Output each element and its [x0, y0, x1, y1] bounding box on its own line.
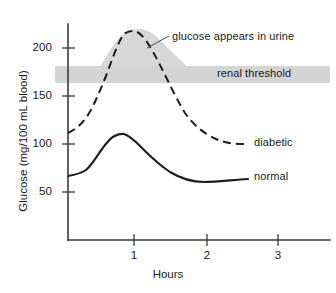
x-axis-title: Hours [0, 268, 336, 280]
x-tick-label-1: 1 [124, 250, 144, 262]
annotation-glucose-appears-in-urine: glucose appears in urine [172, 31, 294, 42]
annotation-renal-threshold: renal threshold [217, 68, 291, 79]
x-tick-label-3: 3 [268, 250, 288, 262]
y-axis-title: Glucose (mg/100 mL blood) [17, 56, 29, 226]
y-tick-label-200: 200 [22, 42, 52, 54]
glucose-tolerance-chart: 200 150 100 50 1 2 3 Glucose (mg/100 mL … [0, 0, 336, 293]
series-label-diabetic: diabetic [254, 137, 293, 148]
series-label-normal: normal [254, 171, 288, 182]
normal-curve [68, 134, 248, 182]
x-tick-label-2: 2 [197, 250, 217, 262]
